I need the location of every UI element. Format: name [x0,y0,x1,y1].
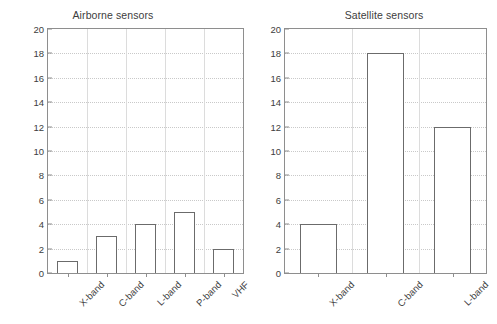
x-tick-label: C-band [116,279,146,309]
chart-panel-airborne: Airborne sensors Number of studies X-ban… [0,0,250,324]
y-tick-label: 12 [270,121,281,132]
y-tick-mark [48,199,52,200]
y-tick-label: 0 [276,268,281,279]
y-tick-mark [48,53,52,54]
y-tick-mark [285,199,289,200]
plot-area-airborne: X-bandC-bandL-bandP-bandVHF 024681012141… [47,28,244,274]
y-tick-label: 16 [270,72,281,83]
x-tick-mark [68,273,69,277]
y-tick-mark [48,77,52,78]
bar [434,127,472,273]
bars-satellite [285,29,486,273]
y-tick-label: 8 [39,170,44,181]
y-tick-mark [285,273,289,274]
y-tick-label: 12 [33,121,44,132]
y-tick-mark [285,175,289,176]
x-tick-mark [107,273,108,277]
x-tick-label: X-band [327,279,356,308]
y-tick-mark [48,175,52,176]
y-tick-mark [285,29,289,30]
y-tick-mark [285,53,289,54]
x-axis-labels-satellite: X-bandC-bandL-band [285,273,486,323]
y-tick-label: 8 [276,170,281,181]
y-tick-mark [48,126,52,127]
y-tick-label: 2 [39,243,44,254]
bar [57,261,79,273]
x-tick-mark [318,273,319,277]
x-tick-mark [386,273,387,277]
x-tick-label: L-band [154,279,183,308]
x-tick-mark [453,273,454,277]
bar-slot [87,29,126,273]
bar-slot [352,29,419,273]
y-tick-mark [285,151,289,152]
bar [300,224,338,273]
y-tick-mark [285,77,289,78]
y-tick-label: 14 [33,97,44,108]
y-tick-label: 18 [33,48,44,59]
x-tick-label: L-band [461,279,490,308]
y-tick-mark [48,224,52,225]
bar-slot [165,29,204,273]
bar-slot [48,29,87,273]
y-tick-label: 10 [270,146,281,157]
bar [367,53,405,273]
y-tick-mark [285,102,289,103]
y-tick-label: 4 [39,219,44,230]
bar [135,224,157,273]
y-tick-label: 6 [39,194,44,205]
y-tick-mark [48,248,52,249]
y-tick-mark [48,273,52,274]
y-tick-mark [285,224,289,225]
bar [96,236,118,273]
bar-slot [419,29,486,273]
bar [174,212,196,273]
y-tick-label: 4 [276,219,281,230]
y-tick-mark [285,126,289,127]
figure: Airborne sensors Number of studies X-ban… [0,0,497,324]
bar-slot [126,29,165,273]
x-tick-label: X-band [76,279,105,308]
x-tick-label: C-band [395,279,425,309]
x-tick-mark [185,273,186,277]
y-tick-mark [285,248,289,249]
x-axis-labels-airborne: X-bandC-bandL-bandP-bandVHF [48,273,243,323]
x-tick-mark [224,273,225,277]
y-tick-label: 10 [33,146,44,157]
y-tick-label: 20 [270,24,281,35]
y-tick-label: 18 [270,48,281,59]
y-tick-label: 6 [276,194,281,205]
y-tick-mark [48,102,52,103]
x-tick-label: P-band [193,279,222,308]
chart-panel-satellite: Satellite sensors X-bandC-bandL-band 024… [247,0,497,324]
bar-slot [285,29,352,273]
bar [213,249,235,273]
y-tick-mark [48,29,52,30]
bars-airborne [48,29,243,273]
plot-area-satellite: X-bandC-bandL-band 02468101214161820 [284,28,487,274]
x-tick-mark [146,273,147,277]
bar-slot [204,29,243,273]
y-tick-label: 2 [276,243,281,254]
y-tick-label: 16 [33,72,44,83]
y-tick-label: 20 [33,24,44,35]
y-tick-label: 0 [39,268,44,279]
y-tick-mark [48,151,52,152]
chart-title-satellite: Satellite sensors [259,9,497,21]
chart-title-airborne: Airborne sensors [0,9,238,21]
y-tick-label: 14 [270,97,281,108]
